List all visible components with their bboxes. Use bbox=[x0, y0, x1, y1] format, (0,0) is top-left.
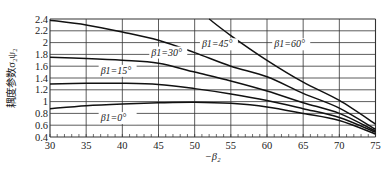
curve-label: β1=45° bbox=[201, 38, 233, 49]
y-tick-label: 0.6 bbox=[35, 120, 48, 131]
x-tick-label: 55 bbox=[226, 140, 237, 151]
y-tick-label: 0.4 bbox=[35, 132, 49, 143]
x-tick-label: 75 bbox=[370, 140, 381, 151]
y-tick-label: 1.8 bbox=[35, 49, 48, 60]
y-tick-label: 1 bbox=[43, 96, 48, 107]
curve-label: β1=15° bbox=[100, 65, 132, 76]
y-tick-labels: 0.40.60.811.21.41.61.822.22.4 bbox=[35, 14, 49, 143]
curve-label: β1=0° bbox=[100, 112, 127, 123]
x-tick-label: 70 bbox=[334, 140, 345, 151]
y-tick-label: 0.8 bbox=[35, 108, 48, 119]
y-tick-label: 2 bbox=[43, 37, 48, 48]
x-tick-label: 45 bbox=[153, 140, 164, 151]
x-tick-label: 40 bbox=[117, 140, 128, 151]
x-tick-labels: 30354045505560657075 bbox=[45, 140, 381, 151]
y-tick-label: 2.2 bbox=[35, 25, 48, 36]
curve-label: β1=30° bbox=[150, 47, 182, 58]
x-tick-label: 60 bbox=[262, 140, 273, 151]
y-tick-label: 2.4 bbox=[35, 14, 49, 25]
x-tick-label: 50 bbox=[189, 140, 200, 151]
y-tick-label: 1.2 bbox=[35, 84, 48, 95]
x-tick-label: 65 bbox=[298, 140, 309, 151]
y-axis-title: 耦度参数σ₂ψ₂ bbox=[5, 48, 17, 108]
chart: 30354045505560657075 0.40.60.811.21.41.6… bbox=[0, 0, 392, 175]
curve-label: β1=60° bbox=[273, 38, 305, 49]
y-tick-label: 1.6 bbox=[35, 61, 48, 72]
y-tick-label: 1.4 bbox=[35, 73, 49, 84]
curve--1-60- bbox=[209, 19, 375, 124]
x-tick-label: 35 bbox=[81, 140, 92, 151]
x-axis-title: −β₂ bbox=[205, 151, 221, 162]
